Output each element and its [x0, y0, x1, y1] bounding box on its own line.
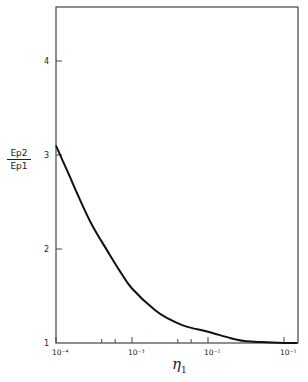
data-curve: [56, 146, 297, 343]
plot-frame: [56, 7, 298, 343]
y-tick-label: 1: [44, 339, 49, 348]
y-axis-label: Ep2 Ep1: [7, 148, 31, 171]
x-tick-label: 10⁻³: [128, 348, 145, 357]
x-axis-label-subscript: 1: [181, 365, 187, 375]
x-axis-label-symbol: η: [172, 355, 181, 373]
x-tick-label: 10⁻⁴: [52, 348, 69, 357]
x-tick-label: 10⁻²: [204, 348, 221, 357]
x-axis-label: η1: [172, 355, 187, 375]
y-tick-label: 3: [44, 151, 49, 160]
y-axis-label-denominator: Ep1: [7, 160, 31, 171]
y-axis-ticks: 1234: [44, 57, 62, 348]
x-tick-label: 10⁻¹: [280, 348, 297, 357]
y-tick-label: 2: [44, 245, 49, 254]
y-tick-label: 4: [44, 57, 49, 66]
chart-plot: 1234 10⁻⁴10⁻³10⁻²10⁻¹: [0, 0, 308, 382]
y-axis-label-numerator: Ep2: [7, 148, 31, 160]
x-axis-ticks: 10⁻⁴10⁻³10⁻²10⁻¹: [52, 337, 297, 357]
